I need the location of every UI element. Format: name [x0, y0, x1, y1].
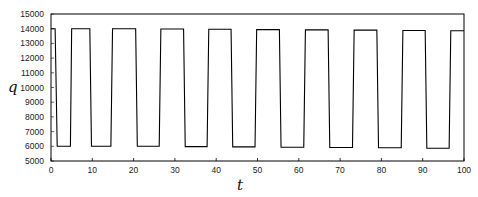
x-axis-label: t — [237, 176, 244, 194]
x-tick-label: 10 — [88, 165, 98, 175]
x-tick-label: 40 — [211, 165, 221, 175]
x-tick-label: 70 — [335, 165, 345, 175]
x-tick-label: 20 — [129, 165, 139, 175]
x-tick-label: 60 — [294, 165, 304, 175]
y-tick-label: 7000 — [25, 127, 44, 137]
y-tick-label: 9000 — [25, 97, 44, 107]
x-tick-label: 80 — [377, 165, 387, 175]
x-tick-label: 0 — [49, 165, 54, 175]
x-tick-label: 50 — [253, 165, 263, 175]
y-tick-label: 11000 — [21, 68, 44, 78]
y-tick-label: 14000 — [20, 24, 44, 34]
y-tick-label: 10000 — [20, 83, 44, 93]
y-tick-label: 6000 — [25, 141, 44, 151]
y-tick-label: 13000 — [20, 38, 44, 48]
x-tick-label: 100 — [457, 165, 471, 175]
line-chart: 0102030405060708090100 50006000700080009… — [0, 0, 478, 197]
y-axis-ticks: 5000600070008000900010000110001200013000… — [20, 9, 54, 166]
x-tick-label: 90 — [418, 165, 428, 175]
y-tick-label: 5000 — [25, 156, 44, 166]
y-tick-label: 12000 — [20, 53, 44, 63]
y-tick-label: 15000 — [20, 9, 44, 19]
y-axis-label: q — [8, 78, 18, 96]
x-tick-label: 30 — [170, 165, 180, 175]
q-series-line — [51, 29, 464, 149]
y-tick-label: 8000 — [25, 112, 44, 122]
